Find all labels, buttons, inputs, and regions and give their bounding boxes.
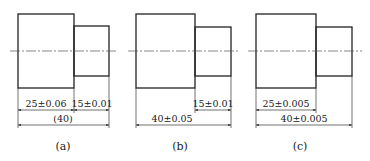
dim-text-total: (40) bbox=[53, 113, 73, 124]
dim-text-small: 15±0.01 bbox=[71, 98, 112, 109]
dimensioning-diagram: 25±0.06 15±0.01 (40) (a) 15±0.01 40±0.05… bbox=[0, 0, 370, 161]
dim-text-total: 40±0.05 bbox=[151, 113, 192, 124]
figure-b: 15±0.01 40±0.05 (b) bbox=[128, 14, 238, 153]
dim-text-big: 25±0.06 bbox=[25, 98, 66, 109]
figure-c: 25±0.005 40±0.005 (c) bbox=[248, 14, 362, 153]
figure-caption: (b) bbox=[172, 140, 188, 153]
dim-text-small: 15±0.01 bbox=[192, 98, 233, 109]
figure-caption: (c) bbox=[293, 140, 308, 153]
figure-a: 25±0.06 15±0.01 (40) (a) bbox=[10, 14, 116, 153]
dim-text-big: 25±0.005 bbox=[262, 98, 309, 109]
small-cylinder-outline bbox=[195, 27, 231, 76]
figure-caption: (a) bbox=[55, 140, 70, 153]
dim-text-total: 40±0.005 bbox=[280, 113, 327, 124]
small-cylinder-outline bbox=[316, 27, 352, 76]
